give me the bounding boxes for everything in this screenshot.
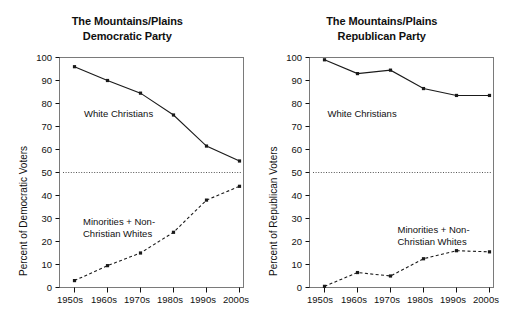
data-point-marker <box>322 58 325 61</box>
series-line <box>324 251 489 287</box>
democratic-ytick-60: 60 <box>41 144 52 155</box>
democratic-y-axis: 100 90 80 70 60 50 40 30 20 10 0 <box>36 52 59 293</box>
republican-chart-svg: 100 90 80 70 60 50 40 30 20 10 0 <box>255 0 509 325</box>
data-point-marker <box>454 94 457 97</box>
republican-ytick-30: 30 <box>291 213 302 224</box>
data-point-marker <box>487 94 490 97</box>
republican-xtick-1960s: 1960s <box>341 294 367 305</box>
democratic-ytick-80: 80 <box>41 98 52 109</box>
democratic-ytick-20: 20 <box>41 236 52 247</box>
republican-ytick-20: 20 <box>291 236 302 247</box>
democratic-annotation-minorities-line2: Christian Whites <box>83 228 152 239</box>
series-line <box>324 60 489 96</box>
democratic-xtick-2000s: 2000s <box>223 294 249 305</box>
panel-democratic: The Mountains/Plains Democratic Party <box>0 0 255 325</box>
republican-ytick-90: 90 <box>291 75 302 86</box>
data-point-marker <box>139 251 142 254</box>
data-point-marker <box>172 113 175 116</box>
data-point-marker <box>106 79 109 82</box>
democratic-annotation-minorities: Minorities + Non- Christian Whites <box>83 216 155 240</box>
data-point-marker <box>388 274 391 277</box>
republican-xtick-1950s: 1950s <box>307 294 333 305</box>
republican-series-minorities <box>322 249 490 288</box>
republican-ytick-40: 40 <box>291 190 302 201</box>
data-point-marker <box>487 250 490 253</box>
democratic-ytick-100: 100 <box>36 52 52 63</box>
data-point-marker <box>73 279 76 282</box>
republican-ytick-0: 0 <box>296 282 301 293</box>
democratic-xtick-1970s: 1970s <box>124 294 150 305</box>
data-point-marker <box>139 92 142 95</box>
democratic-ytick-10: 10 <box>41 259 52 270</box>
data-point-marker <box>454 249 457 252</box>
republican-annotation-minorities-line1: Minorities + Non- <box>398 224 470 235</box>
republican-ytick-100: 100 <box>286 52 302 63</box>
data-point-marker <box>238 159 241 162</box>
republican-annotation-white-christians: White Christians <box>328 108 397 120</box>
democratic-xtick-1980s: 1980s <box>157 294 183 305</box>
data-point-marker <box>421 87 424 90</box>
data-point-marker <box>322 285 325 288</box>
democratic-ytick-40: 40 <box>41 190 52 201</box>
two-panel-line-chart-figure: The Mountains/Plains Democratic Party <box>0 0 509 325</box>
data-point-marker <box>355 72 358 75</box>
democratic-x-axis: 1950s 1960s 1970s 1980s 1990s 2000s <box>57 288 249 306</box>
democratic-ytick-30: 30 <box>41 213 52 224</box>
republican-ytick-70: 70 <box>291 121 302 132</box>
republican-xtick-1990s: 1990s <box>440 294 466 305</box>
democratic-ytick-70: 70 <box>41 121 52 132</box>
republican-xtick-1970s: 1970s <box>374 294 400 305</box>
republican-x-axis: 1950s 1960s 1970s 1980s 1990s 2000s <box>307 288 499 306</box>
republican-ytick-60: 60 <box>291 144 302 155</box>
democratic-chart-svg: 100 90 80 70 60 50 40 30 20 10 0 <box>0 0 255 325</box>
panel-republican-plot: 100 90 80 70 60 50 40 30 20 10 0 <box>255 0 509 325</box>
republican-annotation-minorities-line2: Christian Whites <box>398 236 467 247</box>
democratic-annotation-white-christians: White Christians <box>84 108 153 120</box>
republican-annotation-minorities: Minorities + Non- Christian Whites <box>398 224 470 248</box>
data-point-marker <box>172 231 175 234</box>
democratic-y-axis-label: Percent of Democratic Voters <box>18 146 29 276</box>
data-point-marker <box>388 69 391 72</box>
democratic-annotation-minorities-line1: Minorities + Non- <box>83 216 155 227</box>
democratic-ytick-0: 0 <box>47 282 52 293</box>
democratic-xtick-1950s: 1950s <box>57 294 83 305</box>
republican-series-white-christians <box>322 58 490 97</box>
democratic-xtick-1990s: 1990s <box>190 294 216 305</box>
data-point-marker <box>238 185 241 188</box>
data-point-marker <box>355 271 358 274</box>
data-point-marker <box>205 199 208 202</box>
panel-democratic-plot: 100 90 80 70 60 50 40 30 20 10 0 <box>0 0 255 325</box>
panel-republican: The Mountains/Plains Republican Party <box>255 0 509 325</box>
data-point-marker <box>106 264 109 267</box>
democratic-ytick-50: 50 <box>41 167 52 178</box>
republican-xtick-2000s: 2000s <box>473 294 499 305</box>
democratic-ytick-90: 90 <box>41 75 52 86</box>
democratic-xtick-1960s: 1960s <box>91 294 117 305</box>
republican-xtick-1980s: 1980s <box>407 294 433 305</box>
data-point-marker <box>421 257 424 260</box>
data-point-marker <box>73 65 76 68</box>
republican-ytick-10: 10 <box>291 259 302 270</box>
data-point-marker <box>205 144 208 147</box>
republican-ytick-80: 80 <box>291 98 302 109</box>
republican-y-axis-label: Percent of Republican Voters <box>268 146 279 276</box>
republican-ytick-50: 50 <box>291 167 302 178</box>
republican-y-axis: 100 90 80 70 60 50 40 30 20 10 0 <box>286 52 309 293</box>
